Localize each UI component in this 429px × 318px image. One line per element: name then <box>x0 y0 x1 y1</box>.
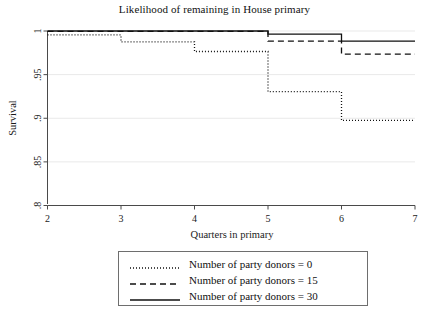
data-series-group <box>48 31 416 120</box>
y-tick-label: .9 <box>32 115 43 123</box>
x-tick-label: 7 <box>413 213 418 224</box>
x-tick-label: 2 <box>45 213 50 224</box>
y-tick-label: .8 <box>32 202 43 210</box>
x-tick-label: 4 <box>192 213 197 224</box>
x-axis-ticks: 234567 <box>45 206 418 224</box>
x-tick-label: 3 <box>119 213 124 224</box>
grid-lines <box>48 31 416 206</box>
legend-item-label: Number of party donors = 15 <box>189 274 318 286</box>
y-axis-ticks: .8.85.9.951 <box>32 29 48 210</box>
x-axis-title: Quarters in primary <box>191 229 275 240</box>
y-tick-label: 1 <box>32 29 43 34</box>
survival-chart-figure: Likelihood of remaining in House primary… <box>0 0 429 318</box>
legend-line-sample-dotted <box>129 259 181 269</box>
x-tick-label: 6 <box>339 213 344 224</box>
y-tick-label: .95 <box>32 68 43 81</box>
legend-item: Number of party donors = 15 <box>129 272 367 288</box>
legend-item-label: Number of party donors = 30 <box>189 290 318 302</box>
legend-line-sample-dashed <box>129 275 181 285</box>
legend-item: Number of party donors = 0 <box>129 256 367 272</box>
series-line-dashed <box>48 31 416 54</box>
chart-legend: Number of party donors = 0Number of part… <box>118 251 368 306</box>
legend-item-label: Number of party donors = 0 <box>189 258 312 270</box>
y-tick-label: .85 <box>32 156 43 169</box>
legend-line-sample-solid <box>129 291 181 301</box>
y-axis-title: Survival <box>7 100 18 136</box>
series-line-solid <box>48 31 416 41</box>
legend-item: Number of party donors = 30 <box>129 288 367 304</box>
x-tick-label: 5 <box>266 213 271 224</box>
series-line-dotted <box>48 35 416 121</box>
